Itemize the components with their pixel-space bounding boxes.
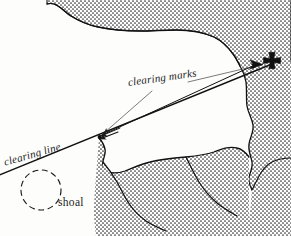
shoal-dashed-circle xyxy=(21,170,61,210)
leader-line-to-headland xyxy=(104,91,152,133)
north-landmass xyxy=(47,0,291,66)
south-landmass xyxy=(94,138,249,236)
chart-canvas xyxy=(0,0,291,236)
label-shoal: shoal xyxy=(58,196,84,208)
chart-figure: clearing marks clearing line shoal xyxy=(0,0,291,236)
headland-point-marker xyxy=(98,135,102,139)
